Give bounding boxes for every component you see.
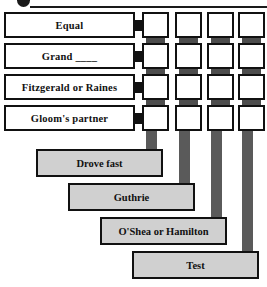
connector-bar-col-1 [146, 129, 157, 151]
grid-cell-r3c2[interactable] [175, 74, 202, 100]
grid-cell-r1c4[interactable] [238, 12, 265, 38]
connector-bar-col-2 [179, 129, 190, 185]
grid-cell-r3c3[interactable] [207, 74, 234, 100]
grid-cell-r4c1[interactable] [142, 105, 169, 131]
grid-cell-r1c1[interactable] [142, 12, 169, 38]
grid-cell-r1c3[interactable] [207, 12, 234, 38]
answer-label-4: Test [186, 260, 204, 271]
answer-bar-4[interactable]: Test [132, 251, 259, 279]
answer-label-1: Drove fast [76, 158, 122, 169]
grid-cell-r2c2[interactable] [175, 43, 202, 69]
grid-cell-r2c3[interactable] [207, 43, 234, 69]
grid-cell-r4c2[interactable] [175, 105, 202, 131]
grid-cell-r4c3[interactable] [207, 105, 234, 131]
grid-cell-r3c1[interactable] [142, 74, 169, 100]
connector-bar-col-4 [242, 129, 253, 252]
clue-label-2: Grand ____ [42, 51, 97, 62]
clue-row-3[interactable]: Fitzgerald or Raines [4, 74, 135, 100]
clue-label-1: Equal [56, 20, 84, 31]
answer-bar-2[interactable]: Guthrie [68, 183, 195, 211]
clue-row-2[interactable]: Grand ____ [4, 43, 135, 69]
clue-row-4[interactable]: Gloom's partner [4, 105, 135, 131]
grid-cell-r2c1[interactable] [142, 43, 169, 69]
puzzle-diagram: Equal Grand ____ Fitzgerald or Raines Gl… [0, 0, 267, 287]
clue-label-3: Fitzgerald or Raines [22, 82, 117, 93]
grid-cell-r2c4[interactable] [238, 43, 265, 69]
grid-cell-r4c4[interactable] [238, 105, 265, 131]
answer-label-3: O'Shea or Hamilton [118, 226, 208, 237]
bullet-dot-icon [17, 0, 30, 7]
header-rule [30, 6, 267, 8]
answer-bar-3[interactable]: O'Shea or Hamilton [100, 217, 227, 245]
grid-cell-r1c2[interactable] [175, 12, 202, 38]
clue-label-4: Gloom's partner [31, 113, 108, 124]
connector-bar-col-3 [211, 129, 222, 219]
grid-cell-r3c4[interactable] [238, 74, 265, 100]
answer-label-2: Guthrie [114, 192, 150, 203]
answer-bar-1[interactable]: Drove fast [36, 149, 163, 177]
clue-row-1[interactable]: Equal [4, 12, 135, 38]
